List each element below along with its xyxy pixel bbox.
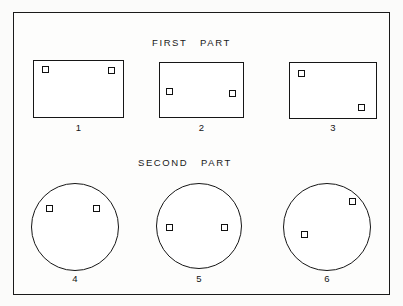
part-6-marker-upper-right (349, 198, 356, 205)
part-1-marker-top-right (108, 67, 115, 74)
part-5 (156, 183, 242, 269)
part-label-1: 1 (33, 123, 124, 133)
caption-first-part: FIRST PART (152, 38, 231, 48)
part-3-marker-bottom-right (358, 104, 365, 111)
part-label-3: 3 (289, 123, 377, 133)
part-label-2: 2 (159, 123, 244, 133)
part-2-marker-mid-right (229, 90, 236, 97)
caption-second-part: SECOND PART (138, 158, 232, 168)
part-4-circle-outline (31, 183, 119, 271)
part-label-5: 5 (156, 274, 242, 284)
part-2-marker-mid-left (166, 88, 173, 95)
part-label-4: 4 (31, 274, 119, 284)
part-3-marker-top-left (298, 70, 305, 77)
part-4 (31, 183, 119, 271)
technical-figure: FIRST PART SECOND PART 123456 (0, 0, 403, 306)
part-1 (33, 60, 124, 118)
part-4-marker-upper-left (46, 205, 53, 212)
part-6-circle-outline (283, 183, 371, 271)
part-4-marker-upper-right (93, 205, 100, 212)
part-6 (283, 183, 371, 271)
part-5-marker-mid-right (221, 224, 228, 231)
part-label-6: 6 (283, 274, 371, 284)
part-1-marker-top-left (42, 66, 49, 73)
part-3 (289, 62, 377, 119)
part-6-marker-lower-left (301, 231, 308, 238)
part-5-marker-mid-left (166, 224, 173, 231)
part-2 (159, 62, 244, 118)
